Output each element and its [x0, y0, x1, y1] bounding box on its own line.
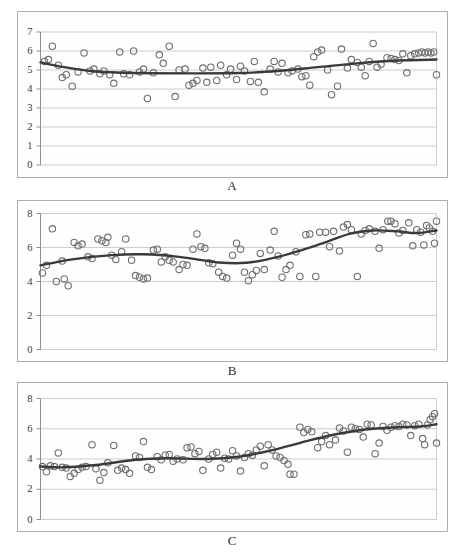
- scatter-point: [283, 266, 289, 272]
- scatter-point: [144, 275, 150, 281]
- scatter-point: [358, 64, 364, 70]
- scatter-point: [188, 444, 194, 450]
- scatter-point: [217, 62, 223, 68]
- scatter-point: [249, 272, 255, 278]
- scatter-point: [166, 43, 172, 49]
- scatter-point: [227, 66, 233, 72]
- scatter-point: [291, 471, 297, 477]
- scatter-point: [97, 477, 103, 483]
- y-tick-label: 1: [27, 140, 32, 151]
- scatter-point: [65, 283, 71, 289]
- scatter-point: [182, 66, 188, 72]
- scatter-point: [261, 89, 267, 95]
- chart-c: 02468: [17, 382, 448, 532]
- scatter-point: [370, 40, 376, 46]
- scatter-point: [261, 266, 267, 272]
- scatter-point: [376, 245, 382, 251]
- chart-a-plot: 01234567: [18, 12, 447, 177]
- y-tick-label: 2: [27, 310, 32, 321]
- scatter-point: [166, 257, 172, 263]
- scatter-point: [194, 231, 200, 237]
- scatter-point: [233, 76, 239, 82]
- chart-b-label: B: [17, 363, 448, 379]
- scatter-point: [55, 450, 61, 456]
- trend-line: [41, 60, 437, 74]
- y-tick-label: 2: [27, 121, 32, 132]
- scatter-point: [156, 52, 162, 58]
- y-tick-label: 8: [27, 208, 32, 219]
- y-tick-label: 8: [27, 393, 32, 404]
- scatter-point: [257, 250, 263, 256]
- chart-c-label: C: [17, 533, 448, 549]
- scatter-point: [144, 95, 150, 101]
- y-tick-label: 4: [27, 83, 33, 94]
- scatter-point: [328, 92, 334, 98]
- scatter-point: [93, 466, 99, 472]
- scatter-point: [136, 274, 142, 280]
- scatter-point: [132, 453, 138, 459]
- scatter-point: [354, 273, 360, 279]
- scatter-point: [132, 272, 138, 278]
- scatter-point: [229, 252, 235, 258]
- scatter-point: [334, 83, 340, 89]
- scatter-point: [419, 435, 425, 441]
- scatter-point: [315, 49, 321, 55]
- scatter-point: [410, 243, 416, 249]
- y-tick-label: 0: [27, 344, 32, 355]
- scatter-point: [261, 463, 267, 469]
- y-tick-label: 3: [27, 102, 32, 113]
- scatter-point: [271, 58, 277, 64]
- figure-page: 01234567 A 02468 B 02468 C: [0, 0, 455, 556]
- scatter-point: [202, 245, 208, 251]
- scatter-point: [404, 70, 410, 76]
- scatter-point: [408, 432, 414, 438]
- chart-b-plot: 02468: [18, 201, 447, 361]
- scatter-point: [368, 422, 374, 428]
- scatter-point: [255, 79, 261, 85]
- scatter-point: [251, 58, 257, 64]
- scatter-point: [237, 246, 243, 252]
- scatter-point: [113, 256, 119, 262]
- scatter-point: [307, 82, 313, 88]
- scatter-point: [111, 80, 117, 86]
- scatter-point: [216, 269, 222, 275]
- scatter-point: [318, 438, 324, 444]
- scatter-point: [200, 467, 206, 473]
- scatter-point: [186, 82, 192, 88]
- scatter-point: [315, 444, 321, 450]
- scatter-point: [204, 79, 210, 85]
- scatter-point: [372, 451, 378, 457]
- scatter-point: [198, 243, 204, 249]
- scatter-point: [241, 269, 247, 275]
- scatter-point: [271, 228, 277, 234]
- scatter-point: [69, 83, 75, 89]
- scatter-point: [126, 470, 132, 476]
- scatter-point: [184, 262, 190, 268]
- y-tick-label: 6: [27, 45, 32, 56]
- scatter-point: [160, 60, 166, 66]
- scatter-point: [360, 434, 366, 440]
- scatter-point: [406, 220, 412, 226]
- scatter-point: [348, 424, 354, 430]
- scatter-point: [99, 238, 105, 244]
- scatter-point: [257, 443, 263, 449]
- scatter-point: [408, 53, 414, 59]
- scatter-point: [376, 440, 382, 446]
- scatter-point: [223, 275, 229, 281]
- scatter-point: [253, 267, 259, 273]
- scatter-point: [190, 246, 196, 252]
- chart-a-label: A: [17, 178, 448, 194]
- scatter-point: [279, 60, 285, 66]
- scatter-point: [79, 241, 85, 247]
- scatter-point: [279, 274, 285, 280]
- scatter-point: [214, 77, 220, 83]
- scatter-point: [122, 466, 128, 472]
- scatter-point: [303, 73, 309, 79]
- y-tick-label: 7: [27, 26, 32, 37]
- scatter-point: [313, 273, 319, 279]
- scatter-point: [71, 239, 77, 245]
- scatter-point: [326, 441, 332, 447]
- chart-b: 02468: [17, 200, 448, 362]
- y-tick-label: 0: [27, 159, 32, 170]
- scatter-point: [154, 246, 160, 252]
